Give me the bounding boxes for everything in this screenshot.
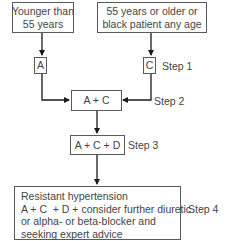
box-older-line-1: 55 years or older or: [102, 5, 201, 18]
box-c: C: [143, 57, 156, 74]
box-55-or-older: 55 years or older or black patient any a…: [97, 2, 207, 33]
resistant-line-3: or alpha- or beta-blocker and: [21, 215, 180, 228]
box-younger-line-1: Younger than: [12, 5, 74, 18]
box-resistant-hypertension: Resistant hypertension A + C + D + consi…: [14, 186, 181, 240]
step-2-label: Step 2: [154, 95, 184, 107]
box-younger-line-2: 55 years: [12, 18, 74, 31]
box-a-plus-c: A + C: [71, 90, 122, 111]
box-a: A: [34, 57, 47, 74]
box-a-plus-c-plus-d-label: A + C + D: [75, 139, 121, 152]
step-3-label: Step 3: [128, 139, 158, 151]
resistant-line-2: A + C + D + consider further diuretic: [21, 203, 180, 216]
box-a-plus-c-label: A + C: [84, 94, 110, 107]
resistant-line-4: seeking expert advice: [21, 228, 180, 241]
box-a-label: A: [37, 59, 44, 72]
box-a-plus-c-plus-d: A + C + D: [70, 135, 125, 155]
resistant-line-1: Resistant hypertension: [21, 190, 180, 203]
box-c-label: C: [146, 59, 154, 72]
box-younger-than-55: Younger than 55 years: [12, 2, 74, 33]
step-4-label: Step 4: [188, 203, 218, 215]
step-1-label: Step 1: [162, 60, 192, 72]
box-older-line-2: black patient any age: [102, 18, 201, 31]
